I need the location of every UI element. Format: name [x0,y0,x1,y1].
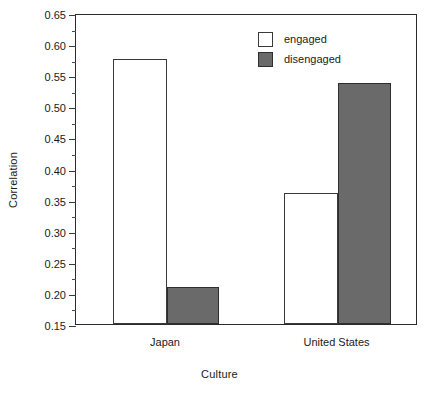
y-tick-label: 0.50 [45,102,66,114]
x-axis-title: Culture [0,368,439,380]
y-tick-minor [72,31,76,32]
y-tick-label: 0.40 [45,165,66,177]
bar-japan-disengaged [167,287,219,324]
y-tick-major [69,171,76,172]
legend-swatch-engaged [258,32,273,47]
y-tick-minor [72,310,76,311]
legend: engaged disengaged [258,29,341,69]
y-tick-label: 0.15 [45,320,66,332]
y-tick-minor [72,186,76,187]
bar-united-states-engaged [284,193,338,324]
y-tick-minor [72,93,76,94]
y-tick-minor [72,124,76,125]
y-tick-label: 0.45 [45,133,66,145]
y-axis-title: Correlation [2,120,24,240]
bar-chart-figure: Correlation 0.150.200.250.300.350.400.45… [0,0,439,394]
y-tick-major [69,264,76,265]
y-tick-minor [72,62,76,63]
y-tick-minor [72,155,76,156]
y-tick-major [69,15,76,16]
y-tick-label: 0.55 [45,71,66,83]
y-tick-major [69,326,76,327]
y-tick-major [69,295,76,296]
y-tick-label: 0.60 [45,40,66,52]
y-axis-title-text: Correlation [7,152,19,208]
y-tick-label: 0.30 [45,227,66,239]
y-tick-label: 0.25 [45,258,66,270]
x-category-label: Japan [150,336,180,348]
y-tick-major [69,139,76,140]
y-tick-major [69,202,76,203]
legend-swatch-disengaged [258,52,273,67]
y-tick-major [69,108,76,109]
bar-united-states-disengaged [338,83,391,324]
legend-item-engaged: engaged [258,29,341,49]
x-category-label: United States [303,336,369,348]
y-tick-minor [72,279,76,280]
legend-label-disengaged: disengaged [284,53,341,65]
bar-japan-engaged [113,59,167,324]
y-tick-major [69,77,76,78]
y-tick-minor [72,248,76,249]
y-tick-label: 0.65 [45,9,66,21]
y-tick-minor [72,217,76,218]
y-tick-label: 0.20 [45,289,66,301]
y-tick-major [69,46,76,47]
plot-area: 0.150.200.250.300.350.400.450.500.550.60… [75,14,417,325]
legend-item-disengaged: disengaged [258,49,341,69]
y-tick-label: 0.35 [45,196,66,208]
y-tick-major [69,233,76,234]
legend-label-engaged: engaged [284,33,327,45]
